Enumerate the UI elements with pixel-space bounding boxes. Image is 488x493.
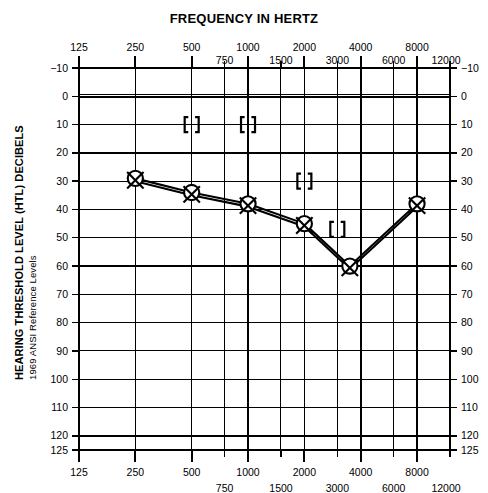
x-axis-labels-bottom: 1252505001000200040008000750150030006000…	[70, 466, 461, 493]
marker-right-ear	[409, 196, 424, 211]
svg-text:80: 80	[56, 316, 68, 328]
svg-text:20: 20	[56, 146, 68, 158]
y-axis-labels-left: −100102030405060708090100110120125	[50, 62, 68, 456]
svg-text:500: 500	[183, 466, 201, 478]
svg-text:50: 50	[461, 231, 473, 243]
marker-right-ear	[184, 185, 199, 200]
svg-text:30: 30	[461, 175, 473, 187]
svg-text:80: 80	[461, 316, 473, 328]
svg-text:4000: 4000	[349, 466, 373, 478]
svg-text:500: 500	[183, 41, 201, 53]
grid-major-lines	[79, 68, 417, 450]
svg-text:750: 750	[216, 54, 234, 66]
plot-svg: 1252505001000200040008000750150030006000…	[0, 0, 488, 493]
svg-text:125: 125	[461, 444, 479, 456]
svg-text:1000: 1000	[236, 41, 260, 53]
bone-conduction-brackets	[185, 117, 345, 237]
svg-text:12000: 12000	[431, 482, 460, 493]
marker-right-ear	[240, 196, 255, 211]
svg-text:1500: 1500	[269, 482, 293, 493]
svg-text:90: 90	[56, 345, 68, 357]
svg-text:750: 750	[216, 482, 234, 493]
svg-text:6000: 6000	[382, 54, 406, 66]
svg-text:4000: 4000	[349, 41, 373, 53]
svg-text:3000: 3000	[326, 54, 350, 66]
svg-text:3000: 3000	[326, 482, 350, 493]
svg-text:0: 0	[461, 90, 467, 102]
svg-text:1000: 1000	[236, 466, 260, 478]
svg-text:8000: 8000	[405, 466, 429, 478]
svg-text:20: 20	[461, 146, 473, 158]
axis-ticks	[72, 56, 457, 462]
svg-text:120: 120	[461, 429, 479, 441]
svg-text:2000: 2000	[293, 466, 317, 478]
svg-text:30: 30	[56, 175, 68, 187]
svg-text:100: 100	[461, 373, 479, 385]
svg-text:10: 10	[56, 118, 68, 130]
svg-text:60: 60	[56, 260, 68, 272]
marker-right-ear	[342, 258, 357, 273]
svg-text:−10: −10	[461, 62, 479, 74]
svg-text:60: 60	[461, 260, 473, 272]
svg-text:40: 40	[461, 203, 473, 215]
svg-text:250: 250	[127, 41, 145, 53]
svg-text:125: 125	[50, 444, 68, 456]
svg-text:110: 110	[51, 401, 68, 413]
svg-text:90: 90	[461, 345, 473, 357]
threshold-curves	[135, 178, 417, 269]
svg-text:110: 110	[461, 401, 478, 413]
y-axis-labels-right: −100102030405060708090100110120125	[461, 62, 479, 456]
svg-text:70: 70	[56, 288, 68, 300]
svg-text:250: 250	[127, 466, 145, 478]
svg-text:2000: 2000	[293, 41, 317, 53]
audiogram-chart: FREQUENCY IN HERTZ HEARING THRESHOLD LEV…	[0, 0, 488, 493]
svg-text:125: 125	[70, 41, 88, 53]
marker-right-ear	[128, 171, 143, 186]
svg-text:100: 100	[50, 373, 68, 385]
svg-text:40: 40	[56, 203, 68, 215]
svg-text:1500: 1500	[269, 54, 293, 66]
svg-text:6000: 6000	[382, 482, 406, 493]
svg-text:50: 50	[56, 231, 68, 243]
svg-text:−10: −10	[50, 62, 68, 74]
svg-text:10: 10	[461, 118, 473, 130]
x-axis-labels-top: 1252505001000200040008000750150030006000…	[70, 41, 461, 66]
svg-text:125: 125	[70, 466, 88, 478]
marker-right-ear	[297, 216, 312, 231]
svg-text:0: 0	[62, 90, 68, 102]
svg-text:12000: 12000	[431, 54, 460, 66]
svg-text:120: 120	[50, 429, 68, 441]
svg-text:70: 70	[461, 288, 473, 300]
svg-text:8000: 8000	[405, 41, 429, 53]
